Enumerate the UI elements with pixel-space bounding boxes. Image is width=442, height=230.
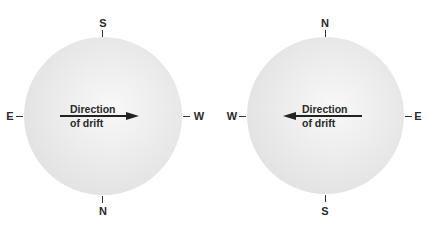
- right-globe-panel: N S W E Direction of drift: [221, 0, 442, 230]
- left-drift-caption-line2: of drift: [70, 118, 103, 128]
- left-globe-right-tick: [183, 116, 190, 117]
- left-globe-top-label: S: [96, 17, 110, 29]
- left-drift-caption-line1: Direction: [70, 104, 116, 114]
- right-globe-bottom-tick: [325, 195, 326, 202]
- right-globe-top-tick: [325, 30, 326, 37]
- right-globe-left-label: W: [225, 110, 239, 122]
- left-globe-panel: S N E W Direction of drift: [0, 0, 221, 230]
- right-drift-caption-line2: of drift: [302, 118, 335, 128]
- right-globe-bottom-label: S: [318, 205, 332, 217]
- left-globe-bottom-tick: [102, 196, 103, 203]
- right-globe-right-tick: [405, 116, 412, 117]
- right-globe-top-label: N: [318, 17, 332, 29]
- right-drift-caption-line1: Direction: [302, 104, 348, 114]
- left-globe-top-tick: [102, 30, 103, 37]
- left-globe-right-label: W: [192, 110, 206, 122]
- left-globe-left-tick: [16, 116, 23, 117]
- left-globe-left-label: E: [3, 110, 17, 122]
- left-drift-arrow-head-icon: [126, 112, 139, 120]
- left-globe-bottom-label: N: [96, 205, 110, 217]
- right-globe-right-label: E: [411, 110, 425, 122]
- right-globe-left-tick: [239, 116, 246, 117]
